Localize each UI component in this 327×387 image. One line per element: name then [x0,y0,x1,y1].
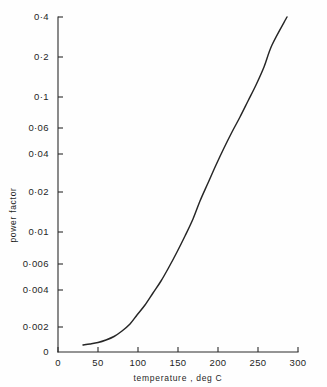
y-tick-label: 0·02 [28,186,49,197]
y-tick-label: 0·06 [28,122,49,133]
x-tick-label: 200 [209,357,226,368]
y-axis-ticks [58,17,63,327]
x-tick-label: 250 [249,357,266,368]
x-tick-label: 50 [92,357,103,368]
y-tick-label: 0·006 [23,258,49,269]
x-axis-tick-labels: 050100150200250300 [55,357,306,368]
chart-figure: 0·40·20·10·060·040·020·010·0060·0040·002… [0,0,327,387]
y-tick-label: 0·01 [28,226,49,237]
y-axis-group: 0·40·20·10·060·040·020·010·0060·0040·002… [23,11,63,357]
x-tick-label: 150 [169,357,186,368]
y-tick-label: 0·4 [34,11,49,22]
x-axis-title: temperature , deg C [134,373,223,383]
y-tick-label: 0·004 [23,284,49,295]
y-tick-label: 0·1 [34,91,49,102]
x-tick-label: 100 [129,357,146,368]
power-factor-temperature-chart: 0·40·20·10·060·040·020·010·0060·0040·002… [0,0,327,387]
x-axis-group: 050100150200250300 [55,347,306,368]
y-tick-label: 0 [43,346,49,357]
data-series-group [83,17,287,345]
y-axis-tick-labels: 0·40·20·10·060·040·020·010·0060·0040·002… [23,11,49,357]
x-tick-label: 300 [289,357,306,368]
power-factor-curve [83,17,287,345]
x-axis-ticks [58,347,298,352]
y-axis-title: power factor [8,187,18,242]
x-tick-label: 0 [55,357,61,368]
y-tick-label: 0·2 [34,51,49,62]
y-tick-label: 0·002 [23,321,49,332]
y-tick-label: 0·04 [28,148,49,159]
